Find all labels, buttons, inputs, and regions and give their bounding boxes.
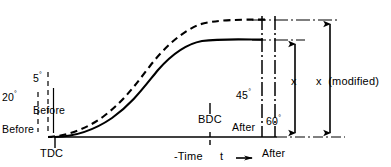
timing-label-5-phase: Before xyxy=(33,105,65,116)
dimension-label-x-modified: x (modified) xyxy=(316,76,379,87)
timing-label-60-phase: After xyxy=(262,148,285,159)
time-axis-label: -Time xyxy=(174,151,203,162)
timing-label-45-after: 45° After xyxy=(232,67,255,154)
tdc-label: TDC xyxy=(40,148,63,159)
timing-label-20-phase: Before xyxy=(2,124,34,135)
timing-label-20-before: 20° Before xyxy=(2,69,34,156)
time-axis-symbol: t xyxy=(220,151,223,162)
timing-diagram: 20° Before 5° Before TDC BDC 45° After 6… xyxy=(0,0,391,167)
timing-label-5-before: 5° Before xyxy=(33,50,65,137)
bdc-label: BDC xyxy=(198,114,222,125)
baseline-lift-curve xyxy=(55,39,262,137)
dimension-label-x: x xyxy=(291,76,297,87)
timing-label-45-phase: After xyxy=(232,122,255,133)
timing-label-60-after: 60° After xyxy=(262,93,285,167)
